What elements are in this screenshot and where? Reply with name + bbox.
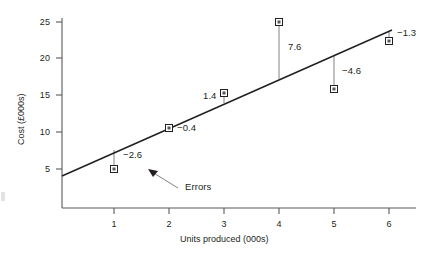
- y-tick-label-5: 5: [24, 164, 50, 174]
- y-tick-label-20: 20: [24, 53, 50, 63]
- error-label-x2: −0.4: [177, 123, 196, 133]
- data-point-markers: [111, 19, 393, 173]
- x-axis-ticks: [114, 208, 389, 214]
- y-tick-label-10: 10: [24, 127, 50, 137]
- data-point-x4: [276, 19, 283, 26]
- errors-callout-arrow: [148, 169, 178, 188]
- x-axis-title: Units produced (000s): [180, 234, 269, 244]
- axis-spines: [62, 18, 416, 208]
- error-label-x6: −1.3: [397, 28, 416, 38]
- data-point-x1: [111, 166, 118, 173]
- x-tick-label-1: 1: [104, 219, 124, 229]
- y-tick-label-15: 15: [24, 90, 50, 100]
- errors-annotation-label: Errors: [185, 182, 211, 192]
- x-tick-label-2: 2: [159, 219, 179, 229]
- error-label-x3: 1.4: [203, 91, 217, 101]
- x-tick-label-6: 6: [379, 219, 399, 229]
- y-axis-title: Cost (£000s): [16, 93, 26, 145]
- x-tick-label-4: 4: [269, 219, 289, 229]
- error-bars: [114, 22, 389, 169]
- x-tick-label-3: 3: [214, 219, 234, 229]
- y-axis-ticks: [56, 22, 62, 169]
- data-point-x2: [166, 125, 173, 132]
- error-label-x5: −4.6: [342, 66, 361, 76]
- y-tick-label-25: 25: [24, 17, 50, 27]
- error-label-x1: −2.6: [123, 150, 142, 160]
- data-point-x6: [386, 38, 393, 45]
- x-tick-label-5: 5: [324, 219, 344, 229]
- data-point-x3: [221, 90, 228, 97]
- regression-line: [62, 30, 392, 176]
- chart-figure: 25 20 15 10 5 1 2 3 4 5 6 Cost (£000s) U…: [0, 0, 428, 256]
- data-point-x5: [331, 86, 338, 93]
- scatter-plot-canvas: [0, 0, 428, 256]
- error-label-x4: 7.6: [288, 42, 302, 52]
